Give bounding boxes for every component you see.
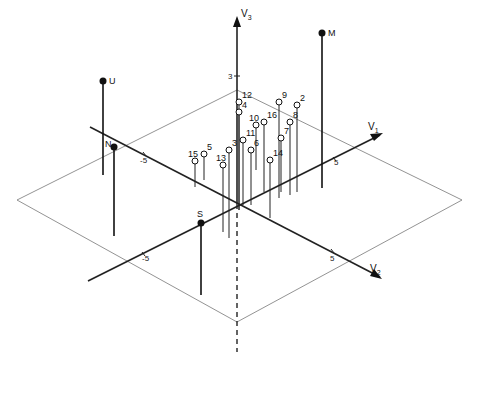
v1-tick-label-neg5: -5 [142, 254, 150, 263]
point-label-13: 13 [216, 153, 226, 163]
point-label-10: 10 [249, 113, 259, 123]
point-label-M: M [328, 28, 336, 38]
biplot-svg: MUNS1249210168117635151314 V3 V1 V2 3 -5… [0, 0, 480, 393]
v1-axis [88, 135, 380, 281]
point-label-6: 6 [254, 138, 259, 148]
v1-axis-label: V1 [368, 121, 379, 134]
point-marker-U [100, 78, 107, 85]
point-label-U: U [109, 76, 116, 86]
v3-arrow-icon [233, 16, 241, 27]
point-label-S: S [197, 209, 203, 219]
point-label-9: 9 [282, 90, 287, 100]
point-stems [103, 33, 322, 295]
v3-axis-label: V3 [241, 8, 252, 21]
point-label-11: 11 [246, 128, 255, 138]
point-label-4: 4 [242, 100, 247, 110]
biplot-3d-diagram: MUNS1249210168117635151314 V3 V1 V2 3 -5… [0, 0, 480, 393]
v3-tick-label-3: 3 [228, 72, 233, 81]
v1-tick-label-5: 5 [334, 158, 339, 167]
point-label-2: 2 [300, 93, 305, 103]
v2-axis [90, 127, 380, 277]
point-marker-N [111, 144, 118, 151]
point-label-12: 12 [242, 90, 252, 100]
v2-tick-label-neg5: -5 [140, 156, 148, 165]
point-label-14: 14 [273, 148, 283, 158]
point-label-N: N [105, 139, 112, 149]
v2-tick-label-5: 5 [330, 254, 335, 263]
point-label-8: 8 [293, 110, 298, 120]
point-label-3: 3 [232, 138, 237, 148]
point-label-15: 15 [188, 149, 198, 159]
point-marker-M [319, 30, 326, 37]
data-points: MUNS1249210168117635151314 [100, 28, 336, 227]
point-label-16: 16 [267, 110, 277, 120]
point-label-5: 5 [207, 142, 212, 152]
point-marker-S [198, 220, 205, 227]
point-label-7: 7 [284, 126, 289, 136]
